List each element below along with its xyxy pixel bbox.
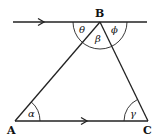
angle-phi: ϕ bbox=[111, 24, 118, 35]
triangle-diagram: B A C θ β ϕ α γ bbox=[0, 0, 164, 140]
angle-beta: β bbox=[94, 33, 101, 44]
label-c: C bbox=[143, 124, 152, 137]
angle-alpha: α bbox=[28, 108, 35, 119]
side-ab bbox=[15, 22, 100, 121]
angle-gamma: γ bbox=[130, 108, 136, 119]
side-bc bbox=[100, 22, 148, 121]
label-b: B bbox=[95, 7, 104, 20]
label-a: A bbox=[6, 124, 16, 137]
angle-theta: θ bbox=[79, 24, 85, 35]
